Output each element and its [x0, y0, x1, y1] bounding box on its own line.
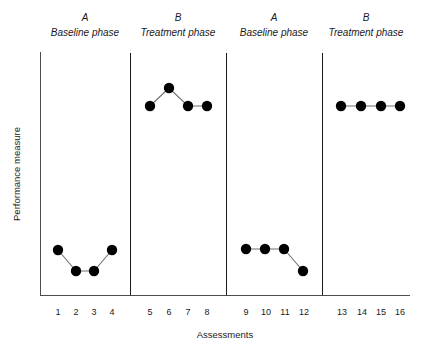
x-tick-label-11: 11 [280, 307, 289, 317]
data-point-2 [71, 266, 81, 276]
x-tick-label-3: 3 [91, 307, 96, 317]
data-point-12 [298, 266, 308, 276]
phase-letter-2: B [175, 12, 182, 23]
phase-letter-1: A [81, 12, 89, 23]
data-point-9 [241, 244, 251, 254]
axes-group [40, 52, 410, 296]
phase-label-3: Baseline phase [240, 27, 309, 38]
data-point-1 [53, 245, 63, 255]
y-axis-title: Performance measure [11, 127, 22, 221]
series-segment-phase-3 [241, 244, 308, 276]
x-tick-label-13: 13 [337, 307, 347, 317]
data-point-3 [89, 266, 99, 276]
x-tick-label-14: 14 [357, 307, 367, 317]
phase-label-2: Treatment phase [141, 27, 216, 38]
series-line-phase-3 [246, 249, 303, 271]
x-tick-label-15: 15 [376, 307, 386, 317]
x-tick-label-5: 5 [147, 307, 152, 317]
x-tick-label-7: 7 [185, 307, 190, 317]
phase-letter-3: A [270, 12, 278, 23]
chart-figure: A Baseline phase B Treatment phase A Bas… [0, 0, 427, 349]
data-point-7 [183, 101, 193, 111]
data-point-6 [164, 83, 174, 93]
data-point-16 [395, 101, 405, 111]
series-segment-phase-1 [53, 245, 117, 276]
x-tick-label-6: 6 [166, 307, 171, 317]
x-tick-label-12: 12 [299, 307, 309, 317]
data-point-14 [356, 101, 366, 111]
x-tick-label-group: 1 2 3 4 5 6 7 8 9 10 11 12 13 14 15 16 [55, 307, 405, 317]
x-tick-label-9: 9 [243, 307, 248, 317]
data-point-13 [336, 101, 346, 111]
data-point-5 [145, 101, 155, 111]
series-line-phase-1 [58, 250, 112, 271]
phase-label-1: Baseline phase [51, 27, 120, 38]
data-point-15 [376, 101, 386, 111]
x-tick-label-8: 8 [204, 307, 209, 317]
data-point-10 [260, 244, 270, 254]
chart-canvas: A Baseline phase B Treatment phase A Bas… [0, 0, 427, 349]
phase-letter-4: B [363, 12, 370, 23]
series-line-phase-2 [150, 88, 207, 106]
phase-header-group: A Baseline phase B Treatment phase A Bas… [51, 12, 404, 38]
x-axis-title: Assessments [197, 329, 254, 340]
data-point-8 [202, 101, 212, 111]
data-point-11 [279, 244, 289, 254]
series-segment-phase-4 [336, 101, 405, 111]
x-tick-label-1: 1 [55, 307, 60, 317]
x-tick-label-2: 2 [73, 307, 78, 317]
x-tick-label-10: 10 [261, 307, 271, 317]
phase-divider-group [131, 53, 323, 295]
x-tick-label-4: 4 [109, 307, 114, 317]
x-tick-label-16: 16 [395, 307, 405, 317]
phase-label-4: Treatment phase [329, 27, 404, 38]
series-segment-phase-2 [145, 83, 212, 111]
data-point-4 [107, 245, 117, 255]
